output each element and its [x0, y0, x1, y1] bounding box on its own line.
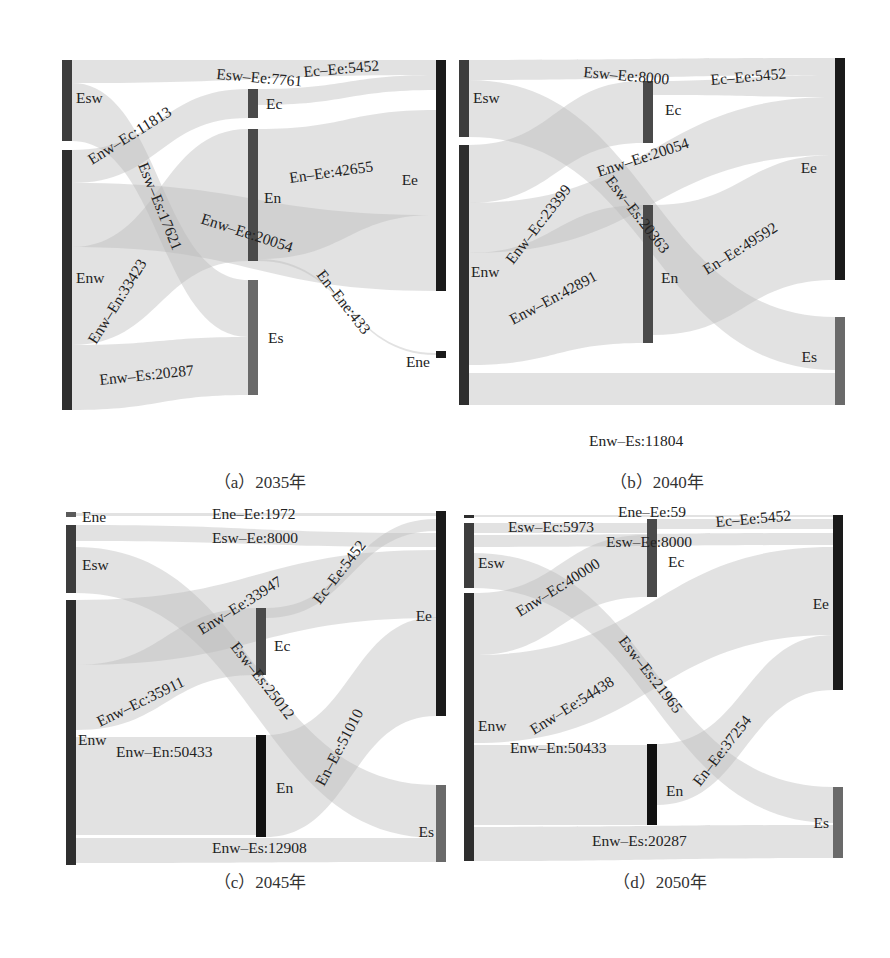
flow-label: Enw–En:50433: [510, 739, 607, 756]
flow-label: Esw–Ee:8000: [212, 529, 298, 546]
flow-label: Enw–Es:12908: [212, 839, 307, 856]
panel-caption: （b）2040年: [557, 468, 757, 493]
node-label-enw: Enw: [478, 717, 507, 734]
sankey-svg: EswEnwEcEnEeEsEne–Ee:59Esw–Ec:5973Esw–Ee…: [460, 505, 860, 865]
node-es: [833, 787, 843, 858]
flow-label: Enw–En:50433: [116, 743, 213, 760]
flow-enw-en: [474, 745, 647, 825]
node-ee: [436, 60, 446, 291]
node-enw: [62, 150, 72, 410]
sankey-panel-d: EswEnwEcEnEeEsEne–Ee:59Esw–Ec:5973Esw–Ee…: [460, 505, 860, 865]
node-label-es: Es: [802, 348, 818, 365]
node-en: [256, 735, 266, 837]
node-ene: [436, 351, 446, 358]
node-en: [647, 744, 657, 825]
flow-label: Esw–Ec:5973: [508, 518, 594, 535]
node-label-en: En: [276, 779, 293, 796]
node-esw: [459, 60, 469, 137]
node-label-ec: Ec: [668, 553, 684, 570]
node-label-esw: Esw: [76, 89, 104, 106]
node-ene: [66, 512, 76, 517]
flow-label: Ene–Ee:1972: [212, 505, 296, 522]
node-label-enw: Enw: [471, 263, 500, 280]
flow-label: Esw–Ee:8000: [606, 533, 692, 550]
flow-label: Enw–Es:20287: [592, 832, 687, 849]
node-label-ene: Ene: [82, 508, 106, 525]
flow-label: Enw–Es:11804: [589, 432, 683, 449]
node-enw: [66, 600, 76, 865]
node-label-ee: Ee: [801, 159, 817, 176]
node-label-esw: Esw: [82, 556, 110, 573]
node-es: [436, 785, 446, 862]
flow-label: Ec–Ee:5452: [303, 56, 380, 80]
flow-enw-es: [469, 373, 835, 405]
node-label-ee: Ee: [416, 607, 432, 624]
node-label-es: Es: [268, 329, 284, 346]
node-label-ene: Ene: [406, 353, 430, 370]
node-label-ee: Ee: [813, 595, 829, 612]
node-label-es: Es: [419, 823, 435, 840]
node-enw: [464, 593, 474, 861]
node-label-enw: Enw: [78, 731, 107, 748]
node-esw: [464, 523, 474, 588]
flow-label: Ene–Ee:59: [618, 503, 686, 520]
sankey-panel-a: EswEnwEcEnEsEeEneEsw–Ee:7761Esw–Es:17621…: [58, 55, 458, 415]
node-ec: [248, 89, 258, 118]
sankey-panel-b: EswEnwEcEnEeEsEsw–Ee:8000Esw–Es:20363Enw…: [455, 55, 855, 415]
sankey-svg: EswEnwEcEnEsEeEneEsw–Ee:7761Esw–Es:17621…: [58, 55, 458, 415]
node-label-ec: Ec: [274, 637, 290, 654]
node-ene: [464, 515, 474, 518]
node-label-ec: Ec: [665, 101, 681, 118]
node-label-ec: Ec: [266, 95, 282, 112]
node-label-en: En: [666, 782, 683, 799]
node-ec: [647, 519, 657, 597]
node-label-ee: Ee: [402, 171, 418, 188]
node-label-esw: Esw: [473, 89, 501, 106]
sankey-svg: EswEnwEcEnEeEsEsw–Ee:8000Esw–Es:20363Enw…: [455, 55, 855, 415]
node-label-en: En: [264, 189, 281, 206]
node-ee: [835, 58, 845, 280]
panel-caption: （d）2050年: [560, 868, 760, 893]
node-label-enw: Enw: [76, 269, 105, 286]
panel-caption: （a）2035年: [160, 468, 360, 493]
node-label-esw: Esw: [478, 554, 506, 571]
node-es: [248, 280, 258, 395]
node-ee: [436, 511, 446, 716]
sankey-svg: EneEswEnwEcEnEeEsEne–Ee:1972Esw–Ee:8000E…: [62, 505, 462, 865]
node-label-en: En: [661, 269, 678, 286]
node-ec: [643, 81, 653, 143]
node-label-es: Es: [814, 814, 830, 831]
node-esw: [62, 60, 72, 141]
node-ee: [833, 515, 843, 690]
node-esw: [66, 525, 76, 593]
node-es: [835, 317, 845, 405]
sankey-panel-c: EneEswEnwEcEnEeEsEne–Ee:1972Esw–Ee:8000E…: [62, 505, 462, 865]
node-enw: [459, 145, 469, 405]
panel-caption: （c）2045年: [160, 868, 360, 893]
